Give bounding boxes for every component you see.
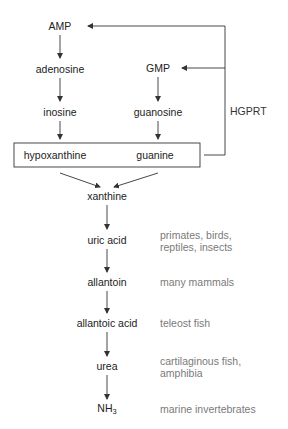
arrow-guanine-xanthine xyxy=(114,173,158,187)
organisms-uric-acid: primates, birds, reptiles, insects xyxy=(160,229,232,253)
node-guanosine: guanosine xyxy=(134,107,182,118)
organisms-allantoic-acid: teleost fish xyxy=(160,317,210,329)
organism-line: reptiles, insects xyxy=(160,241,232,253)
node-allantoin: allantoin xyxy=(87,277,126,288)
organisms-allantoin: many mammals xyxy=(160,276,234,288)
nh3-subscript: 3 xyxy=(113,407,117,416)
node-adenosine: adenosine xyxy=(36,64,84,75)
organism-line: amphibia xyxy=(160,367,241,379)
node-inosine: inosine xyxy=(43,107,76,118)
node-allantoic-acid: allantoic acid xyxy=(77,318,138,329)
node-hypoxanthine: hypoxanthine xyxy=(24,150,86,161)
organism-line: teleost fish xyxy=(160,317,210,329)
node-gmp: GMP xyxy=(146,63,170,74)
node-uric-acid: uric acid xyxy=(87,235,126,246)
organisms-nh3: marine invertebrates xyxy=(160,403,256,415)
organism-line: primates, birds, xyxy=(160,229,232,241)
node-urea: urea xyxy=(96,361,117,372)
node-amp: AMP xyxy=(49,21,72,32)
node-xanthine: xanthine xyxy=(87,191,127,202)
organisms-urea: cartilaginous fish, amphibia xyxy=(160,355,241,379)
arrow-hypoxanthine-xanthine xyxy=(60,173,100,187)
enzyme-label-hgprt: HGPRT xyxy=(230,106,267,117)
organism-line: marine invertebrates xyxy=(160,403,256,415)
organism-line: many mammals xyxy=(160,276,234,288)
organism-line: cartilaginous fish, xyxy=(160,355,241,367)
hgprt-loop-amp xyxy=(88,26,225,155)
node-nh3: NH3 xyxy=(97,403,116,416)
node-guanine: guanine xyxy=(136,150,173,161)
nh3-base: NH xyxy=(97,402,112,414)
